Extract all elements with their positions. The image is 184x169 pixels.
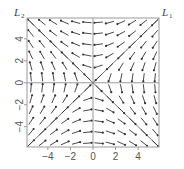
field-arrow-shaft — [40, 52, 44, 59]
field-arrow-shaft — [106, 131, 114, 134]
field-arrow-shaft — [106, 120, 114, 123]
arrow-head-dot — [33, 128, 35, 130]
field-arrow-shaft — [94, 109, 102, 111]
field-arrow-shaft — [75, 84, 78, 92]
field-arrow-shaft — [96, 74, 102, 80]
arrow-head-dot — [105, 56, 107, 58]
arrow-head-dot — [123, 112, 125, 114]
arrow-head-dot — [124, 144, 126, 146]
field-arrow-shaft — [152, 19, 158, 25]
field-arrow-shaft — [95, 98, 103, 101]
x-tick-label: −4 — [42, 151, 54, 162]
field-arrow-shaft — [39, 20, 46, 25]
arrow-head-dot — [60, 41, 62, 43]
arrow-head-dot — [141, 69, 143, 71]
field-arrow-shaft — [94, 132, 102, 133]
field-arrow-shaft — [143, 73, 144, 81]
arrow-head-dot — [113, 132, 115, 134]
x-tick-label: 4 — [135, 151, 141, 162]
field-arrow-shaft — [42, 73, 43, 81]
arrow-head-dot — [82, 32, 84, 34]
arrow-head-dot — [117, 57, 119, 59]
arrow-head-dot — [102, 142, 104, 144]
y-tick-label: 0 — [15, 80, 26, 86]
arrow-head-dot — [60, 30, 62, 32]
arrow-head-dot — [131, 80, 133, 82]
arrow-head-dot — [39, 40, 41, 42]
field-arrow-shaft — [72, 53, 79, 57]
arrow-head-dot — [33, 139, 35, 141]
arrow-head-dot — [79, 107, 81, 109]
field-arrow-shaft — [40, 107, 44, 114]
arrow-head-dot — [67, 129, 69, 131]
field-arrow-shaft — [39, 30, 45, 36]
field-arrow-shaft — [51, 107, 56, 114]
arrow-head-dot — [101, 90, 103, 92]
field-arrow-shaft — [96, 85, 102, 91]
field-arrow-shaft — [31, 84, 32, 92]
arrow-head-dot — [105, 34, 107, 36]
field-arrow-shaft — [83, 44, 91, 45]
field-arrow-shaft — [142, 52, 146, 59]
x-tick-label: 2 — [113, 151, 119, 162]
field-arrow-shaft — [154, 95, 156, 103]
arrow-head-dot — [39, 51, 41, 53]
field-arrow-shaft — [29, 106, 33, 113]
arrow-head-dot — [53, 83, 55, 85]
field-arrow-shaft — [132, 73, 133, 81]
field-arrow-shaft — [64, 84, 66, 92]
arrow-head-dot — [41, 72, 43, 74]
field-arrow-shaft — [155, 84, 156, 92]
arrow-head-dot — [79, 130, 81, 132]
field-arrow-shaft — [50, 141, 57, 145]
field-arrow-shaft — [72, 32, 80, 35]
field-arrow-shaft — [94, 55, 102, 57]
arrow-head-dot — [118, 69, 120, 71]
arrow-head-dot — [82, 64, 84, 66]
arrow-head-dot — [102, 110, 104, 112]
label-L2-subscript: 2 — [21, 12, 25, 20]
field-arrow-shaft — [131, 95, 134, 103]
field-arrow-shaft — [130, 52, 135, 59]
field-arrow-shaft — [140, 20, 147, 25]
field-arrow-shaft — [141, 129, 147, 135]
field-arrow-shaft — [61, 141, 69, 144]
arrow-head-dot — [68, 140, 70, 142]
field-arrow-shaft — [50, 20, 57, 24]
field-arrow-shaft — [142, 95, 145, 103]
arrow-head-dot — [155, 102, 157, 104]
arrow-head-dot — [82, 21, 84, 23]
label-L2: L — [13, 6, 20, 18]
arrow-head-dot — [76, 83, 78, 85]
field-arrow-shaft — [129, 130, 136, 135]
field-arrow-shaft — [107, 96, 113, 102]
arrow-head-dot — [67, 106, 69, 108]
field-arrow-shaft — [29, 118, 34, 125]
arrow-head-dot — [71, 31, 73, 33]
arrow-head-dot — [79, 141, 81, 143]
field-arrow-shaft — [83, 109, 91, 111]
arrow-head-dot — [119, 80, 121, 82]
arrow-head-dot — [40, 61, 42, 63]
field-arrow-shaft — [51, 52, 56, 59]
field-arrow-shaft — [83, 132, 91, 133]
y-axis-ticks: −4−2024 — [14, 36, 27, 133]
field-arrow-shaft — [129, 118, 135, 124]
arrow-head-dot — [140, 46, 142, 48]
field-arrow-shaft — [52, 95, 55, 103]
x-axis-ticks: −4−2024 — [42, 147, 141, 162]
field-arrow-shaft — [64, 73, 66, 81]
arrow-head-dot — [67, 118, 69, 120]
arrow-head-dot — [106, 68, 108, 70]
field-arrow-shaft — [143, 84, 144, 92]
arrow-head-dot — [122, 102, 124, 104]
arrow-head-dot — [110, 91, 112, 93]
arrow-head-dot — [145, 123, 147, 125]
arrow-head-dot — [116, 34, 118, 36]
arrow-head-dot — [153, 69, 155, 71]
field-arrow-shaft — [53, 73, 54, 81]
field-arrow-shaft — [118, 130, 125, 134]
arrow-head-dot — [117, 46, 119, 48]
arrow-head-dot — [93, 55, 95, 57]
arrow-head-dot — [55, 117, 57, 119]
